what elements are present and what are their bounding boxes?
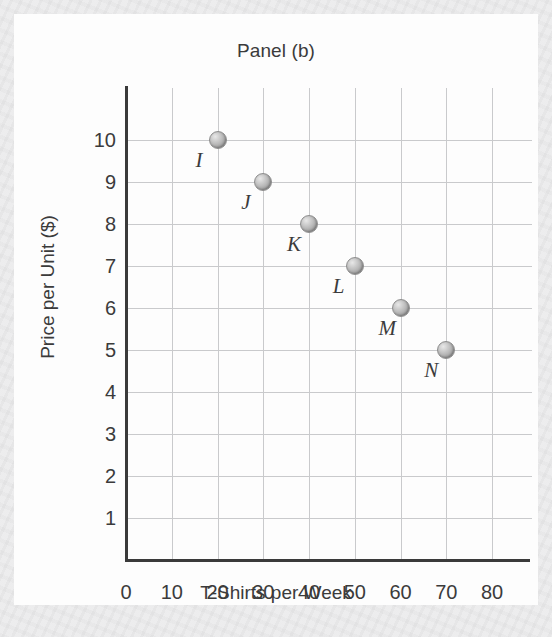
- gridline-vertical: [492, 88, 493, 560]
- chart-title: Panel (b): [14, 40, 538, 62]
- data-point-label-i: I: [196, 150, 203, 171]
- y-tick-label: 3: [82, 424, 116, 444]
- data-point-n[interactable]: [437, 341, 455, 359]
- x-tick-label: 40: [289, 582, 329, 602]
- gridline-horizontal: [126, 392, 532, 393]
- gridline-horizontal: [126, 476, 532, 477]
- gridline-vertical: [355, 88, 356, 560]
- x-tick-label: 60: [381, 582, 421, 602]
- gridline-horizontal: [126, 350, 532, 351]
- y-tick-label: 4: [82, 382, 116, 402]
- data-point-label-k: K: [287, 234, 301, 255]
- gridline-horizontal: [126, 518, 532, 519]
- gridline-vertical: [218, 88, 219, 560]
- x-tick-label: 50: [335, 582, 375, 602]
- gridline-horizontal: [126, 308, 532, 309]
- scatter-chart: Panel (b) Price per Unit ($) T-Shirts pe…: [14, 14, 538, 605]
- y-tick-label: 9: [82, 172, 116, 192]
- y-tick-label: 5: [82, 340, 116, 360]
- x-tick-label: 80: [472, 582, 512, 602]
- gridline-horizontal: [126, 224, 532, 225]
- y-tick-label: 8: [82, 214, 116, 234]
- gridline-horizontal: [126, 266, 532, 267]
- gridline-vertical: [401, 88, 402, 560]
- data-point-k[interactable]: [300, 215, 318, 233]
- data-point-label-n: N: [424, 360, 438, 381]
- y-tick-label: 1: [82, 508, 116, 528]
- y-tick-label: 2: [82, 466, 116, 486]
- gridline-vertical: [309, 88, 310, 560]
- x-tick-label: 10: [152, 582, 192, 602]
- y-axis-title: Price per Unit ($): [37, 147, 59, 427]
- y-axis-spine: [125, 86, 128, 560]
- data-point-l[interactable]: [346, 257, 364, 275]
- data-point-i[interactable]: [209, 131, 227, 149]
- y-tick-label: 10: [82, 130, 116, 150]
- data-point-label-j: J: [241, 192, 250, 213]
- data-point-label-m: M: [379, 318, 397, 339]
- y-tick-label: 6: [82, 298, 116, 318]
- x-tick-label: 70: [426, 582, 466, 602]
- data-point-label-l: L: [333, 276, 345, 297]
- x-tick-label: 20: [198, 582, 238, 602]
- x-tick-label: 30: [243, 582, 283, 602]
- plot-area: 12345678910 01020304050607080 IJKLMN: [112, 72, 538, 572]
- gridline-horizontal: [126, 182, 532, 183]
- gridline-horizontal: [126, 140, 532, 141]
- gridline-vertical: [172, 88, 173, 560]
- gridline-vertical: [446, 88, 447, 560]
- data-point-m[interactable]: [392, 299, 410, 317]
- data-point-j[interactable]: [254, 173, 272, 191]
- gridline-vertical: [263, 88, 264, 560]
- x-axis-spine: [125, 559, 530, 562]
- gridline-horizontal: [126, 434, 532, 435]
- figure-panel: Panel (b) Price per Unit ($) T-Shirts pe…: [14, 14, 538, 605]
- x-tick-label: 0: [106, 582, 146, 602]
- y-tick-label: 7: [82, 256, 116, 276]
